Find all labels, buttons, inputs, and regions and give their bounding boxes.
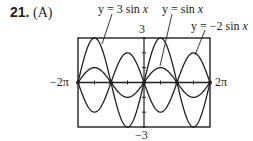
leader-neg2sinx: [195, 30, 205, 55]
intersection-point: [109, 81, 113, 85]
leader-3sinx: [102, 14, 112, 44]
intersection-point: [142, 81, 146, 85]
graph: [0, 0, 253, 141]
intersection-point: [76, 81, 80, 85]
intersection-point: [208, 81, 212, 85]
leader-sinx: [160, 14, 172, 66]
intersection-point: [175, 81, 179, 85]
